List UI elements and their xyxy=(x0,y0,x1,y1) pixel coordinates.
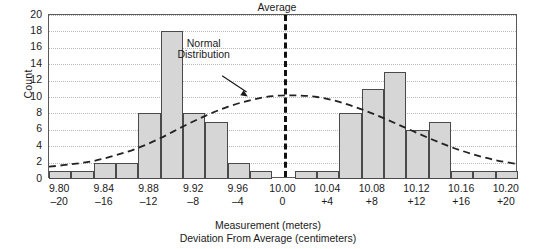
x-axis-title-measurement: Measurement (meters) xyxy=(0,219,536,232)
histogram-bar xyxy=(362,89,384,179)
histogram-bar xyxy=(49,171,71,179)
histogram-bar xyxy=(250,171,272,179)
x-tick-deviation: –12 xyxy=(126,195,172,208)
x-axis-title-deviation: Deviation From Average (centimeters) xyxy=(0,232,536,245)
x-tick-measurement: 9.80 xyxy=(36,182,82,195)
histogram-bar xyxy=(473,171,495,179)
x-tick-deviation: 0 xyxy=(260,195,306,208)
histogram-bar xyxy=(71,171,93,179)
average-line xyxy=(284,15,287,177)
y-tick-8: 8 xyxy=(16,106,42,118)
histogram-bar xyxy=(94,163,116,179)
y-tick-10: 10 xyxy=(16,90,42,102)
y-tick-16: 16 xyxy=(16,40,42,52)
x-tick-measurement: 9.88 xyxy=(126,182,172,195)
plot-area: Normal Distribution xyxy=(48,14,517,178)
histogram-bar xyxy=(138,113,160,179)
x-tick-measurement: 10.04 xyxy=(304,182,350,195)
histogram-bar xyxy=(384,72,406,179)
x-tick-group: 10.20+20 xyxy=(483,182,529,208)
y-tick-20: 20 xyxy=(16,8,42,20)
y-tick-2: 2 xyxy=(16,155,42,167)
x-tick-group: 9.88–12 xyxy=(126,182,172,208)
x-tick-group: 10.04+4 xyxy=(304,182,350,208)
histogram-bar xyxy=(429,122,451,179)
x-tick-measurement: 10.00 xyxy=(260,182,306,195)
x-tick-measurement: 9.92 xyxy=(170,182,216,195)
histogram-bar xyxy=(451,171,473,179)
x-tick-group: 9.84–16 xyxy=(81,182,127,208)
x-tick-group: 10.16+16 xyxy=(438,182,484,208)
y-tick-14: 14 xyxy=(16,57,42,69)
y-tick-12: 12 xyxy=(16,73,42,85)
histogram-bar xyxy=(496,171,518,179)
x-tick-deviation: +16 xyxy=(438,195,484,208)
normal-distribution-label: Normal Distribution xyxy=(177,38,230,61)
y-tick-4: 4 xyxy=(16,139,42,151)
x-tick-deviation: –4 xyxy=(215,195,261,208)
x-tick-deviation: +8 xyxy=(349,195,395,208)
histogram-bar xyxy=(317,171,339,179)
x-tick-deviation: –8 xyxy=(170,195,216,208)
x-tick-deviation: –20 xyxy=(36,195,82,208)
histogram-bar xyxy=(183,113,205,179)
normal-label-line1: Normal xyxy=(187,37,221,49)
histogram-bar xyxy=(339,113,361,179)
x-tick-measurement: 9.96 xyxy=(215,182,261,195)
x-tick-measurement: 10.12 xyxy=(394,182,440,195)
x-tick-measurement: 10.16 xyxy=(438,182,484,195)
normal-label-line2: Distribution xyxy=(177,48,230,60)
histogram-figure: Count 02468101214161820 Normal Distribut… xyxy=(0,0,536,249)
x-tick-group: 9.80–20 xyxy=(36,182,82,208)
y-tick-18: 18 xyxy=(16,24,42,36)
average-label: Average xyxy=(258,1,297,13)
x-tick-deviation: –16 xyxy=(81,195,127,208)
x-tick-measurement: 9.84 xyxy=(81,182,127,195)
histogram-bar xyxy=(295,171,317,179)
x-tick-deviation: +20 xyxy=(483,195,529,208)
x-tick-group: 9.92–8 xyxy=(170,182,216,208)
x-tick-group: 10.000 xyxy=(260,182,306,208)
x-tick-measurement: 10.08 xyxy=(349,182,395,195)
x-axis-titles: Measurement (meters) Deviation From Aver… xyxy=(0,219,536,245)
histogram-bar xyxy=(406,130,428,179)
x-tick-group: 10.12+12 xyxy=(394,182,440,208)
x-tick-deviation: +4 xyxy=(304,195,350,208)
histogram-bar xyxy=(228,163,250,179)
x-tick-measurement: 10.20 xyxy=(483,182,529,195)
x-tick-group: 10.08+8 xyxy=(349,182,395,208)
y-tick-6: 6 xyxy=(16,122,42,134)
histogram-bar xyxy=(116,163,138,179)
x-tick-deviation: +12 xyxy=(394,195,440,208)
x-tick-group: 9.96–4 xyxy=(215,182,261,208)
histogram-bar xyxy=(205,122,227,179)
